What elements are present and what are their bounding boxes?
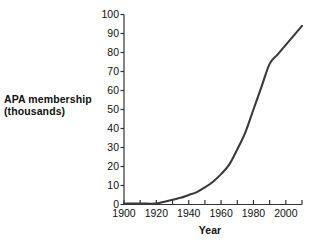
- data-series-line: [124, 26, 302, 204]
- x-tick-label: 1980: [242, 207, 266, 219]
- x-tick-label-group: 190019201940196019802000: [112, 207, 297, 219]
- x-tick-label: 2000: [274, 207, 298, 219]
- y-tick-label: 30: [107, 141, 119, 153]
- y-tick-label: 70: [107, 65, 119, 77]
- y-tick-label-group: 0102030405060708090100: [101, 8, 119, 210]
- x-tick-label: 1940: [177, 207, 201, 219]
- plot-area: 0102030405060708090100 19001920194019601…: [0, 0, 311, 243]
- y-tick-label: 100: [101, 8, 119, 20]
- y-tick-label: 10: [107, 179, 119, 191]
- y-tick-label: 90: [107, 27, 119, 39]
- x-tick-label: 1960: [209, 207, 233, 219]
- x-tick-label: 1900: [112, 207, 136, 219]
- y-tick-label: 50: [107, 103, 119, 115]
- chart-figure: APA membership(thousands) Year 010203040…: [0, 0, 311, 243]
- y-tick-label: 80: [107, 46, 119, 58]
- y-tick-label: 60: [107, 84, 119, 96]
- x-tick-label: 1920: [145, 207, 169, 219]
- y-tick-label: 20: [107, 160, 119, 172]
- y-tick-label: 40: [107, 122, 119, 134]
